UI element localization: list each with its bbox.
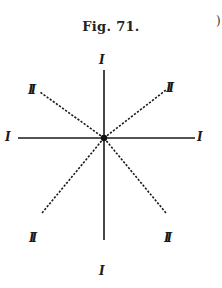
label-right: I bbox=[197, 131, 203, 143]
label-top: I bbox=[99, 54, 105, 66]
diagonal-upper-left-line bbox=[40, 92, 104, 138]
label-upper-right: II bbox=[166, 82, 171, 94]
center-point bbox=[101, 135, 107, 141]
diagonal-upper-right-line bbox=[104, 90, 166, 138]
label-left: I bbox=[5, 131, 11, 143]
label-lower-left: II bbox=[29, 232, 34, 244]
label-bottom: I bbox=[99, 265, 105, 277]
diagonal-lower-right-line bbox=[104, 138, 166, 213]
label-lower-right: II bbox=[164, 232, 169, 244]
label-upper-left: II bbox=[28, 84, 33, 96]
diagonal-lower-left-line bbox=[42, 138, 104, 213]
